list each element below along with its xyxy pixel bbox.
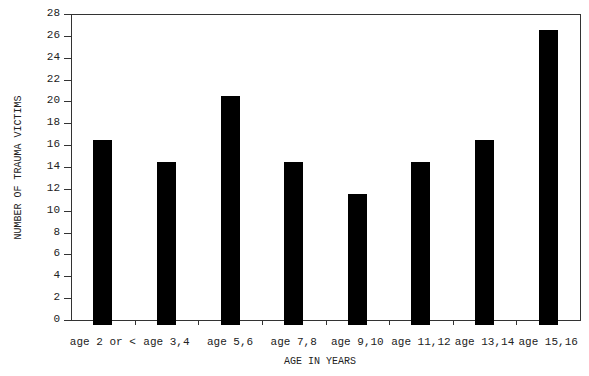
y-tick [64,276,71,277]
x-tick [453,320,454,325]
y-tick-label: 18 [10,117,60,128]
y-tick-label: 16 [10,139,60,150]
y-tick [64,145,71,146]
y-tick [64,101,71,102]
bar [93,140,112,325]
x-tick [262,320,263,325]
bar [221,96,240,325]
y-tick-label: 26 [10,30,60,41]
x-tick [326,320,327,325]
x-tick-label: age 11,12 [386,336,456,348]
bar [284,162,303,325]
y-tick-label: 0 [10,314,60,325]
bar [539,30,558,325]
x-tick [516,320,517,325]
y-tick-label: 24 [10,52,60,63]
y-tick-label: 10 [10,205,60,216]
y-tick [64,167,71,168]
y-tick [64,298,71,299]
y-tick [64,58,71,59]
y-tick [64,36,71,37]
x-tick-label: age 5,6 [195,336,265,348]
bar [348,194,367,325]
y-tick-label: 2 [10,292,60,303]
y-tick-label: 22 [10,74,60,85]
y-tick-label: 28 [10,8,60,19]
plot-area [71,14,581,321]
x-tick-label: age 9,10 [322,336,392,348]
bar [411,162,430,325]
x-tick [198,320,199,325]
y-tick [64,233,71,234]
y-tick [64,14,71,15]
x-axis-title: AGE IN YEARS [260,356,380,367]
bar [157,162,176,325]
y-tick [64,254,71,255]
y-tick-label: 4 [10,270,60,281]
y-tick [64,320,71,321]
y-tick-label: 6 [10,248,60,259]
y-tick-label: 20 [10,95,60,106]
y-tick-label: 8 [10,227,60,238]
x-tick [389,320,390,325]
x-tick-label: age 7,8 [259,336,329,348]
y-tick-label: 12 [10,183,60,194]
bar [475,140,494,325]
x-tick-label: age 15,16 [513,336,583,348]
x-tick-label: age 2 or < [68,336,138,348]
x-tick-label: age 13,14 [450,336,520,348]
y-tick [64,189,71,190]
y-tick [64,211,71,212]
x-tick-label: age 3,4 [131,336,201,348]
y-tick [64,80,71,81]
y-tick-label: 14 [10,161,60,172]
y-tick [64,123,71,124]
x-tick [135,320,136,325]
